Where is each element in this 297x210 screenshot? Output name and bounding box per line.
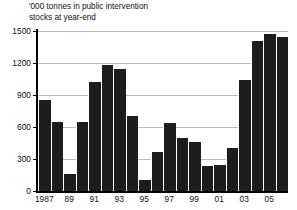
y-axis-tick-label: 1500 (0, 27, 31, 35)
chart-figure: '000 tonnes in public intervention stock… (0, 0, 297, 210)
x-axis-tick-label: 97 (165, 195, 174, 203)
plot-area (38, 31, 288, 191)
bar (101, 65, 114, 191)
chart-title: '000 tonnes in public intervention stock… (29, 2, 279, 23)
gridline (38, 31, 288, 32)
x-axis-tick-label: 01 (215, 195, 224, 203)
bar (263, 34, 276, 191)
bar (113, 69, 126, 191)
bar (188, 142, 201, 191)
bar (226, 148, 239, 191)
bar (151, 152, 164, 191)
bar (63, 174, 76, 191)
x-axis-tick-label: 03 (240, 195, 249, 203)
bar (138, 180, 151, 191)
bar (88, 82, 101, 191)
x-axis-tick-label: 1987 (35, 195, 54, 203)
x-axis-tick-label: 05 (265, 195, 274, 203)
x-axis-tick-label: 91 (90, 195, 99, 203)
bar (201, 166, 214, 191)
x-axis-tick-label: 95 (140, 195, 149, 203)
x-axis-tick-label: 99 (190, 195, 199, 203)
y-axis-tick-label: 1200 (0, 59, 31, 67)
x-axis-tick-label: 89 (65, 195, 74, 203)
bar (213, 165, 226, 191)
bar (176, 138, 189, 191)
y-axis-tick-label: 0 (0, 187, 31, 195)
bar (51, 122, 64, 191)
bar (238, 80, 251, 191)
x-axis-tick-label: 93 (115, 195, 124, 203)
y-axis-line (36, 29, 38, 192)
x-axis-line (36, 191, 288, 193)
bar (126, 116, 139, 191)
bar (276, 37, 289, 191)
bar (76, 122, 89, 191)
y-axis-tick-label: 300 (0, 155, 31, 163)
bar (163, 123, 176, 191)
bar (251, 41, 264, 191)
y-axis-tick-label: 900 (0, 91, 31, 99)
bar (38, 100, 51, 191)
y-axis-tick-label: 600 (0, 123, 31, 131)
